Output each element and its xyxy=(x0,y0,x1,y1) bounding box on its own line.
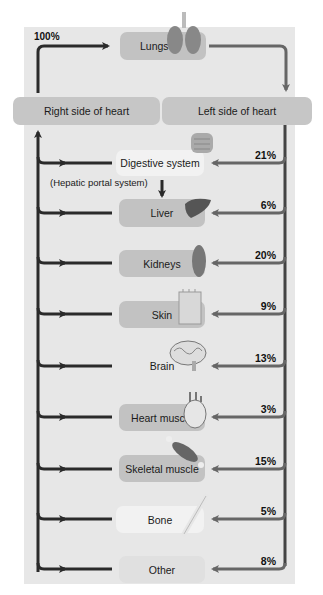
liver-icon xyxy=(183,196,213,220)
lungs-icon xyxy=(166,12,202,56)
intestine-icon xyxy=(190,130,214,156)
percent-other: 8% xyxy=(236,555,276,567)
left-heart-box: Left side of heart xyxy=(162,97,312,125)
organ-label: Skin xyxy=(152,309,172,321)
percent-brain: 13% xyxy=(236,352,276,364)
organ-label: Other xyxy=(149,564,175,576)
brain-icon xyxy=(168,339,208,373)
organ-label: Bone xyxy=(148,514,173,526)
heart-icon xyxy=(182,390,208,430)
left-heart-label: Left side of heart xyxy=(198,105,276,117)
bone-icon xyxy=(178,492,212,538)
percent-bone: 5% xyxy=(236,505,276,517)
percent-heart-muscle: 3% xyxy=(236,403,276,415)
muscle-icon xyxy=(165,435,205,469)
percent-kidneys: 20% xyxy=(236,249,276,261)
percent-skeletal-muscle: 15% xyxy=(236,455,276,467)
percent-skin: 9% xyxy=(236,300,276,312)
kidney-icon xyxy=(190,243,208,279)
organ-label: Kidneys xyxy=(143,258,180,270)
percent-digestive: 21% xyxy=(236,149,276,161)
lungs-label: Lungs xyxy=(140,40,169,52)
hepatic-portal-label: (Hepatic portal system) xyxy=(50,177,148,188)
organ-label: Liver xyxy=(151,207,174,219)
skin-icon xyxy=(177,288,203,326)
organ-label: Digestive system xyxy=(120,157,199,169)
total-flow-label: 100% xyxy=(34,31,60,42)
right-heart-box: Right side of heart xyxy=(13,97,160,125)
right-heart-label: Right side of heart xyxy=(44,105,129,117)
organ-box-other: Other xyxy=(119,556,205,583)
percent-liver: 6% xyxy=(236,199,276,211)
